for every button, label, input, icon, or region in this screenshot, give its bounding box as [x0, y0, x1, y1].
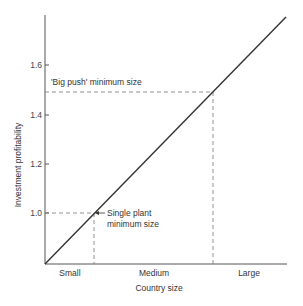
y-tick-1.2: 1.2	[30, 159, 42, 169]
x-category-small: Small	[59, 268, 80, 278]
y-ticks: 1.6 1.4 1.2 1.0	[30, 60, 49, 218]
y-tick-1.6: 1.6	[30, 60, 42, 70]
x-axis-title: Country size	[135, 283, 183, 293]
annotation-single-plant-line2: minimum size	[107, 219, 159, 229]
profitability-line	[45, 17, 286, 264]
y-tick-1.4: 1.4	[30, 110, 42, 120]
x-category-large: Large	[238, 268, 260, 278]
y-tick-1.0: 1.0	[30, 208, 42, 218]
annotation-single-plant-line1: Single plant	[107, 208, 152, 218]
annotation-big-push: 'Big push' minimum size	[51, 77, 142, 87]
chart: 1.6 1.4 1.2 1.0 Single plant minimum siz…	[0, 0, 303, 306]
x-category-medium: Medium	[139, 268, 169, 278]
y-axis-title: Investment profitability	[13, 122, 23, 207]
